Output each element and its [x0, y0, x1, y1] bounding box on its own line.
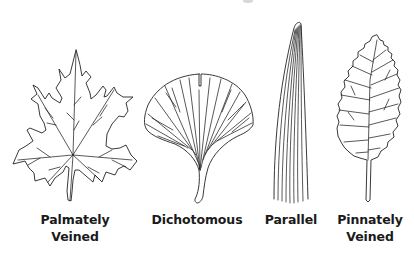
label-line: Veined: [25, 228, 125, 245]
label-line: Parallel: [256, 211, 326, 228]
label-line: Dichotomous: [147, 211, 247, 228]
label-line: Veined: [330, 228, 410, 245]
label-palmately-veined: Palmately Veined: [25, 211, 125, 245]
maple-leaf-icon: [13, 50, 137, 201]
ginkgo-leaf-icon: [144, 74, 253, 203]
label-line: Palmately: [25, 211, 125, 228]
label-line: Pinnately: [330, 211, 410, 228]
pinnate-leaf-icon: [337, 35, 401, 202]
label-pinnately-veined: Pinnately Veined: [330, 211, 410, 245]
label-dichotomous: Dichotomous: [147, 211, 247, 228]
label-parallel: Parallel: [256, 211, 326, 228]
parallel-leaf-icon: [274, 22, 308, 203]
